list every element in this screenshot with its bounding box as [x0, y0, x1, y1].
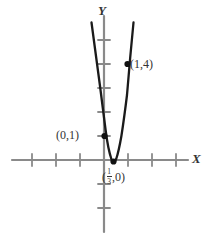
vertex-fraction-denominator: 3: [107, 177, 111, 185]
vertex-fraction-numerator: 1: [107, 168, 111, 176]
vertex-close-paren: ,0): [112, 171, 125, 183]
point-label-0-1: (0,1): [56, 129, 79, 141]
point-label-vertex: ( 1 3 ,0): [102, 168, 125, 185]
point-marker-0-1: [101, 133, 107, 139]
coordinate-plot: [0, 0, 208, 238]
graph-figure: Y X (0,1) (1,4) ( 1 3 ,0): [0, 0, 208, 238]
x-axis-label: X: [192, 152, 201, 165]
parabola-curve: [92, 23, 134, 163]
point-marker-vertex: [110, 158, 116, 164]
vertex-fraction: 1 3: [107, 168, 112, 185]
vertex-open-paren: (: [102, 171, 106, 183]
point-label-1-4: (1,4): [130, 58, 153, 70]
y-axis-label: Y: [98, 4, 106, 17]
